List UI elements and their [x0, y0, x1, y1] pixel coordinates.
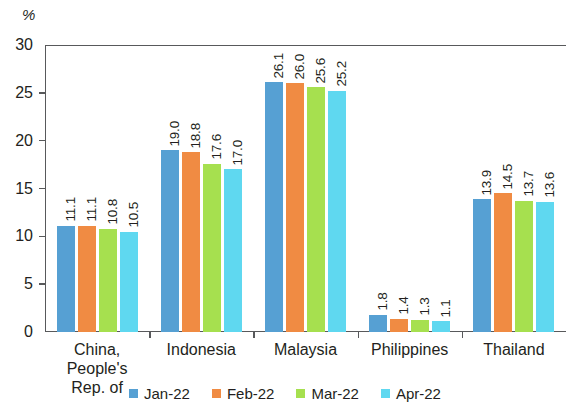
bar-column[interactable]: 10.8	[99, 45, 117, 332]
bar-value-label: 14.5	[501, 164, 515, 189]
bar-value-label: 26.1	[271, 53, 285, 78]
bar-value-label: 18.8	[188, 123, 202, 148]
bar-value-label: 25.6	[313, 58, 327, 83]
bar[interactable]	[57, 226, 75, 332]
bar-column[interactable]: 26.0	[286, 45, 304, 332]
legend-item[interactable]: Feb-22	[212, 386, 275, 401]
bar-column[interactable]: 17.6	[203, 45, 221, 332]
bar-column[interactable]: 26.1	[265, 45, 283, 332]
bar-column[interactable]: 17.0	[224, 45, 242, 332]
bar[interactable]	[473, 199, 491, 332]
x-axis-category-label: Philippines	[358, 340, 462, 359]
bar[interactable]	[203, 164, 221, 332]
bar[interactable]	[265, 82, 283, 332]
bar[interactable]	[432, 321, 450, 332]
bar-value-label: 10.5	[126, 202, 140, 227]
bar-value-label: 1.4	[397, 296, 411, 314]
y-axis-tick-label: 5	[0, 275, 33, 292]
bar-value-label: 10.8	[105, 199, 119, 224]
bar[interactable]	[307, 87, 325, 332]
bar-value-label: 17.6	[209, 134, 223, 159]
bar-column[interactable]: 1.3	[411, 45, 429, 332]
x-axis-tick-mark	[462, 332, 464, 338]
bar[interactable]	[369, 315, 387, 332]
legend-item[interactable]: Mar-22	[296, 386, 359, 401]
bar-column[interactable]: 11.1	[57, 45, 75, 332]
bar-column[interactable]: 25.2	[328, 45, 346, 332]
y-axis-unit-label: %	[22, 6, 36, 23]
bar-value-label: 26.0	[292, 54, 306, 79]
bar-column[interactable]: 10.5	[120, 45, 138, 332]
y-axis-tick-label: 25	[0, 84, 33, 101]
bar-group-bars: 13.914.513.713.6	[462, 45, 566, 332]
x-axis-category-label-line: Indonesia	[149, 340, 253, 359]
legend-swatch	[381, 389, 390, 398]
bar-group: 11.111.110.810.5	[45, 45, 149, 332]
bar-column[interactable]: 1.1	[432, 45, 450, 332]
bar-chart: % 051015202530 11.111.110.810.519.018.81…	[0, 0, 570, 410]
bar-column[interactable]: 1.4	[390, 45, 408, 332]
bar-group-bars: 19.018.817.617.0	[149, 45, 253, 332]
x-axis-category-label-line: China, People's	[45, 340, 149, 378]
bar[interactable]	[161, 150, 179, 332]
bar-value-label: 1.3	[418, 297, 432, 315]
legend-swatch	[129, 389, 138, 398]
y-axis-tick-label: 20	[0, 132, 33, 149]
bar-group-bars: 1.81.41.31.1	[358, 45, 462, 332]
bar-value-label: 25.2	[334, 61, 348, 86]
y-axis-tick-label: 0	[0, 323, 33, 340]
bar-value-label: 13.9	[480, 170, 494, 195]
bar-value-label: 1.8	[376, 293, 390, 311]
y-axis-tick-label: 15	[0, 180, 33, 197]
legend-label: Mar-22	[311, 386, 359, 401]
bar[interactable]	[286, 83, 304, 332]
bar[interactable]	[536, 202, 554, 332]
legend-swatch	[296, 389, 305, 398]
bar-column[interactable]: 14.5	[494, 45, 512, 332]
x-axis-category-label: Indonesia	[149, 340, 253, 359]
x-axis-category-label: Thailand	[462, 340, 566, 359]
x-axis-category-label-line: Malaysia	[253, 340, 357, 359]
bar-value-label: 11.1	[63, 197, 77, 221]
bar-group: 26.126.025.625.2	[253, 45, 357, 332]
bar-value-label: 17.0	[230, 140, 244, 165]
bar-value-label: 1.1	[439, 299, 453, 317]
bar-column[interactable]: 11.1	[78, 45, 96, 332]
legend-label: Feb-22	[227, 386, 275, 401]
x-axis-tick-mark	[253, 332, 255, 338]
x-axis-category-label-line: Philippines	[358, 340, 462, 359]
bar-value-label: 11.1	[84, 197, 98, 221]
bar-value-label: 13.7	[522, 171, 536, 196]
bar[interactable]	[182, 152, 200, 332]
bar[interactable]	[494, 193, 512, 332]
bar[interactable]	[328, 91, 346, 332]
bar-column[interactable]: 13.7	[515, 45, 533, 332]
bar-group: 1.81.41.31.1	[358, 45, 462, 332]
bar-column[interactable]: 1.8	[369, 45, 387, 332]
bar[interactable]	[120, 232, 138, 332]
bar[interactable]	[99, 229, 117, 332]
bar-column[interactable]: 19.0	[161, 45, 179, 332]
bar-value-label: 13.6	[543, 172, 557, 197]
legend-item[interactable]: Jan-22	[129, 386, 190, 401]
y-axis-tick-label: 30	[0, 36, 33, 53]
chart-legend: Jan-22Feb-22Mar-22Apr-22	[0, 386, 570, 401]
bar-column[interactable]: 18.8	[182, 45, 200, 332]
bar-column[interactable]: 13.6	[536, 45, 554, 332]
bar[interactable]	[390, 319, 408, 332]
bar-group: 19.018.817.617.0	[149, 45, 253, 332]
bar-column[interactable]: 25.6	[307, 45, 325, 332]
bar[interactable]	[515, 201, 533, 332]
legend-label: Jan-22	[144, 386, 190, 401]
x-axis-category-label-line: Thailand	[462, 340, 566, 359]
bar[interactable]	[411, 320, 429, 332]
bar-group-bars: 26.126.025.625.2	[253, 45, 357, 332]
x-axis-tick-mark	[358, 332, 360, 338]
x-axis-tick-mark	[149, 332, 151, 338]
bar[interactable]	[224, 169, 242, 332]
legend-item[interactable]: Apr-22	[381, 386, 441, 401]
x-axis-category-label: Malaysia	[253, 340, 357, 359]
bar-column[interactable]: 13.9	[473, 45, 491, 332]
bar-group-bars: 11.111.110.810.5	[45, 45, 149, 332]
bar[interactable]	[78, 226, 96, 332]
